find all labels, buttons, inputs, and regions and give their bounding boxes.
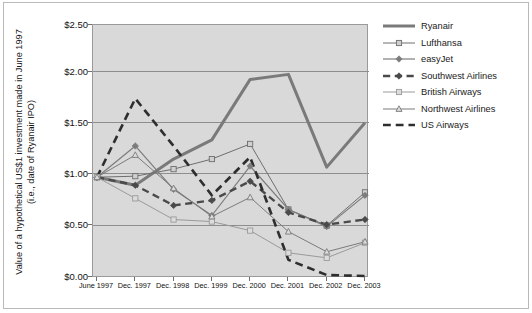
y-tick-label-2.50: $2.50	[42, 19, 88, 30]
legend-label: Ryanair	[421, 21, 453, 31]
series-marker-british-airways-1	[133, 196, 138, 201]
legend-label: British Airways	[421, 87, 481, 97]
legend-label: Lufthansa	[421, 38, 462, 48]
legend-marker	[396, 40, 401, 45]
y-tick-label-2.00: $2.00	[42, 66, 88, 77]
legend-swatch-icon	[382, 118, 416, 132]
series-marker-southwest-airlines-2	[170, 202, 176, 208]
legend-swatch-icon	[382, 102, 416, 116]
series-marker-northwest-airlines-4	[247, 194, 253, 200]
legend-label: US Airways	[421, 120, 469, 130]
series-marker-british-airways-6	[324, 255, 329, 260]
y-axis-title: Value of a hypothetical US$1 investment …	[13, 12, 37, 292]
x-tick-label-7: Dec. 2003	[336, 281, 392, 290]
legend-item-easyjet[interactable]: easyJet	[382, 51, 528, 68]
legend-swatch-icon	[382, 19, 416, 33]
series-marker-northwest-airlines-1	[132, 152, 138, 158]
y-tick-label-1.50: $1.50	[42, 117, 88, 128]
legend-item-us-airways[interactable]: US Airways	[382, 117, 528, 134]
series-marker-british-airways-5	[286, 250, 291, 255]
series-line-ryanair	[97, 74, 365, 185]
legend-item-southwest-airlines[interactable]: Southwest Airlines	[382, 68, 528, 85]
chart-figure: Value of a hypothetical US$1 investment …	[0, 0, 532, 313]
y-axis-title-container: Value of a hypothetical US$1 investment …	[0, 0, 40, 300]
series-marker-british-airways-3	[209, 219, 214, 224]
series-marker-british-airways-2	[171, 217, 176, 222]
legend-label: easyJet	[421, 54, 453, 64]
legend-swatch-icon	[382, 52, 416, 66]
plot-area	[92, 24, 368, 277]
legend-swatch-icon	[382, 69, 416, 83]
y-tick-label-0.50: $0.50	[42, 219, 88, 230]
series-line-northwest-airlines	[97, 155, 365, 252]
legend-marker	[396, 56, 402, 62]
legend-label: Northwest Airlines	[421, 104, 495, 114]
legend-item-lufthansa[interactable]: Lufthansa	[382, 35, 528, 52]
legend-label: Southwest Airlines	[421, 71, 497, 81]
series-marker-british-airways-4	[248, 228, 253, 233]
legend-marker	[396, 73, 402, 79]
legend-swatch-icon	[382, 85, 416, 99]
chart-legend: RyanairLufthansaeasyJetSouthwest Airline…	[382, 18, 528, 134]
series-lines-svg	[93, 25, 369, 278]
series-marker-lufthansa-2	[171, 167, 176, 172]
series-line-british-airways	[97, 177, 365, 258]
legend-item-northwest-airlines[interactable]: Northwest Airlines	[382, 101, 528, 118]
y-tick-label-1.00: $1.00	[42, 168, 88, 179]
series-marker-lufthansa-4	[248, 141, 253, 146]
series-marker-southwest-airlines-7	[362, 216, 368, 222]
legend-item-british-airways[interactable]: British Airways	[382, 84, 528, 101]
series-marker-lufthansa-3	[209, 156, 214, 161]
series-marker-lufthansa-1	[133, 174, 138, 179]
legend-marker	[396, 90, 401, 95]
legend-swatch-icon	[382, 36, 416, 50]
legend-item-ryanair[interactable]: Ryanair	[382, 18, 528, 35]
